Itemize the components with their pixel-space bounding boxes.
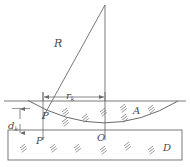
label-region-d: D <box>163 143 171 153</box>
lower-block-D <box>8 130 182 160</box>
label-rk-subscript: k <box>71 95 75 102</box>
label-point-p-prime: P′ <box>36 136 45 146</box>
prime-mark: ′ <box>43 136 45 146</box>
label-radius-R: R <box>54 38 62 49</box>
diagram-canvas <box>0 0 190 167</box>
label-p-prime-base: P <box>36 135 43 146</box>
label-region-a: A <box>133 106 140 116</box>
indentation-diagram: R rk dk P P′ O A D <box>0 0 190 167</box>
label-origin-o: O <box>97 133 105 143</box>
label-contact-radius-rk: rk <box>66 91 74 101</box>
label-dk-subscript: k <box>14 125 18 132</box>
label-depth-dk: dk <box>8 121 18 131</box>
label-point-p: P <box>42 111 49 121</box>
